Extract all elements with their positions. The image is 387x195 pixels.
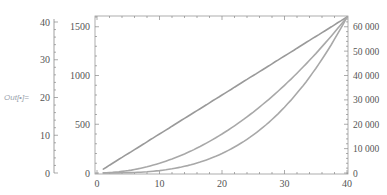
outer-left-tick-label: 10	[40, 130, 50, 141]
x-tick-label: 10	[155, 178, 165, 189]
outer-left-tick-label: 30	[40, 54, 50, 65]
right-tick-label: 60 000	[353, 22, 379, 32]
outer-left-tick-label: 0	[45, 168, 50, 179]
series-line-1	[103, 17, 347, 169]
x-tick-label: 40	[342, 178, 352, 189]
inner-left-tick-label: 0	[85, 168, 90, 179]
outer-left-tick-label: 40	[40, 17, 50, 28]
right-tick-label: 10 000	[353, 144, 379, 154]
multi-axis-line-chart: 010203040050010001500010 00020 00030 000…	[0, 0, 387, 195]
right-tick-label: 40 000	[353, 71, 379, 81]
x-tick-label: 30	[280, 178, 290, 189]
right-tick-label: 20 000	[353, 120, 379, 130]
right-tick-label: 0	[353, 169, 358, 179]
x-tick-label: 20	[217, 178, 227, 189]
outer-left-tick-label: 20	[40, 92, 50, 103]
inner-left-tick-label: 500	[75, 119, 90, 130]
inner-left-tick-label: 1000	[70, 70, 90, 81]
x-tick-label: 0	[95, 178, 100, 189]
right-tick-label: 50 000	[353, 47, 379, 57]
inner-left-tick-label: 1500	[70, 21, 90, 32]
right-tick-label: 30 000	[353, 95, 379, 105]
